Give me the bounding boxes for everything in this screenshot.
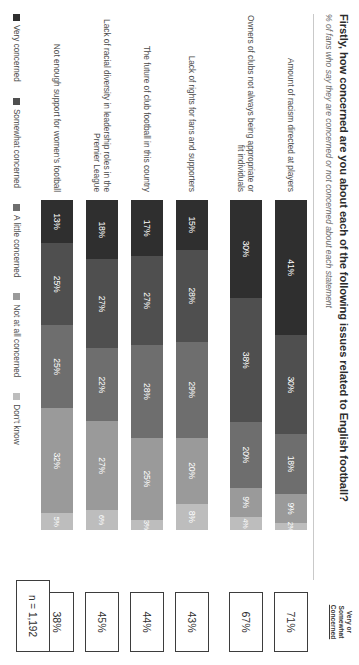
legend-item-label: Somewhat concerned [12, 109, 21, 188]
bar-segment-value: 20% [241, 447, 251, 464]
bar-segment: 27% [131, 256, 163, 345]
stacked-bar: 30%38%20%9%4% [230, 200, 262, 530]
bar-segment-value: 27% [142, 292, 152, 309]
bar-row-label: Owners of clubs not always being appropr… [226, 14, 266, 192]
legend-item-label: Very concerned [12, 25, 21, 82]
bar-segment-value: 20% [187, 462, 197, 479]
bar-segment: 30% [275, 335, 307, 434]
legend-item-label: A little concerned [12, 215, 21, 277]
bar-segment-value: 38% [241, 352, 251, 369]
bar-segment-value: 6% [98, 515, 107, 525]
header-divider [313, 14, 314, 580]
vs-heading-line-1: Very or [345, 592, 353, 652]
legend-swatch-icon [13, 98, 20, 105]
legend-item: Somewhat concerned [12, 98, 21, 188]
bar-segment-value: 41% [286, 259, 296, 276]
bar-segment: 28% [176, 250, 208, 342]
very-or-somewhat-column-heading: Very or Somewhat Concerned [330, 592, 353, 652]
bar-row-label: Lack of racial diversity in leadership r… [82, 14, 122, 192]
bar-segment: 9% [275, 494, 307, 524]
bar-segment: 25% [131, 438, 163, 521]
stacked-bar: 41%30%18%9%2% [275, 200, 307, 530]
bar-row-label: The future of club football in this coun… [127, 14, 167, 192]
bar-segment: 20% [230, 422, 262, 487]
sample-size-label: n = 1,192 [28, 595, 39, 637]
bar-segment: 5% [41, 513, 73, 530]
stacked-bar: 13%25%25%32%5% [41, 200, 73, 530]
stacked-bar: 17%27%28%25%3% [131, 200, 163, 530]
bar-segment-value: 30% [241, 241, 251, 258]
bar-segment: 8% [176, 504, 208, 530]
bar-segment-value: 25% [52, 358, 62, 375]
chart-header: Firstly, how concerned are you about eac… [324, 14, 351, 574]
bar-segment: 18% [86, 200, 118, 259]
bar-segment-value: 30% [286, 376, 296, 393]
very-or-somewhat-concerned-value: 67% [229, 592, 263, 652]
bar-row: Lack of rights for fans and supporters15… [172, 0, 212, 665]
very-or-somewhat-concerned-value: 43% [175, 592, 209, 652]
bar-segment-value: 9% [286, 503, 296, 515]
legend-item: A little concerned [12, 204, 21, 277]
legend-item: Very concerned [12, 14, 21, 82]
bar-segment: 2% [275, 523, 307, 530]
bar-row: The future of club football in this coun… [127, 0, 167, 665]
legend-swatch-icon [13, 393, 20, 400]
bar-segment: 6% [86, 510, 118, 530]
bar-segment-value: 22% [97, 376, 107, 393]
vs-heading-line-3: Concerned [330, 605, 337, 639]
bar-segment-value: 29% [187, 381, 197, 398]
bar-segment: 18% [275, 434, 307, 493]
chart-canvas: Firstly, how concerned are you about eac… [0, 0, 359, 665]
very-or-somewhat-concerned-value: 44% [130, 592, 164, 652]
bar-row: Amount of racism directed at players41%3… [271, 0, 311, 665]
bar-segment-value: 13% [52, 213, 62, 230]
page-title: Firstly, how concerned are you about eac… [337, 14, 351, 574]
bar-row: Lack of racial diversity in leadership r… [82, 0, 122, 665]
bar-row-label: Not enough support for women's football [37, 14, 77, 192]
legend-item: Don't know [12, 393, 21, 444]
bar-segment: 30% [230, 200, 262, 298]
bar-segment-value: 8% [187, 511, 197, 523]
bar-rows-container: Amount of racism directed at players41%3… [32, 0, 311, 665]
legend-swatch-icon [13, 14, 20, 21]
bar-segment-value: 32% [52, 452, 62, 469]
bar-segment-value: 4% [242, 518, 251, 528]
bar-row: Not enough support for women's football1… [37, 0, 77, 665]
bar-segment: 41% [275, 200, 307, 335]
sample-size-box: n = 1,192 [16, 580, 50, 652]
bar-segment: 27% [86, 421, 118, 510]
bar-segment-value: 27% [97, 296, 107, 313]
bar-segment: 15% [176, 200, 208, 250]
bar-segment: 25% [41, 325, 73, 408]
bar-segment-value: 17% [142, 220, 152, 237]
chart-subtitle: % of fans who say they are concerned or … [324, 14, 334, 574]
bar-segment: 3% [131, 520, 163, 530]
bar-segment-value: 27% [97, 457, 107, 474]
bar-segment-value: 18% [286, 456, 296, 473]
bar-segment-value: 18% [97, 221, 107, 238]
bar-segment-value: 5% [53, 517, 62, 527]
stacked-bar: 15%28%29%20%8% [176, 200, 208, 530]
rotated-page-wrapper: Firstly, how concerned are you about eac… [0, 0, 359, 665]
bar-row: Owners of clubs not always being appropr… [226, 0, 266, 665]
bar-segment: 20% [176, 438, 208, 504]
bar-segment: 17% [131, 200, 163, 256]
legend-swatch-icon [13, 204, 20, 211]
bar-segment: 9% [230, 488, 262, 517]
vs-heading-line-2: Somewhat [337, 592, 345, 652]
bar-segment-value: 25% [142, 471, 152, 488]
bar-segment-value: 9% [241, 496, 251, 508]
bar-segment: 13% [41, 200, 73, 243]
bar-segment-value: 3% [143, 520, 152, 530]
legend-item-label: Don't know [12, 404, 21, 444]
bar-segment-value: 28% [187, 287, 197, 304]
bar-segment: 32% [41, 408, 73, 514]
bar-row-label: Lack of rights for fans and supporters [172, 14, 212, 192]
bar-segment: 28% [131, 345, 163, 437]
bar-segment-value: 28% [142, 383, 152, 400]
chart-area: Firstly, how concerned are you about eac… [0, 0, 359, 665]
very-or-somewhat-concerned-value: 45% [85, 592, 119, 652]
bar-segment-value: 2% [287, 522, 296, 530]
very-or-somewhat-concerned-value: 71% [274, 592, 308, 652]
legend-item: Not at all concerned [12, 293, 21, 377]
